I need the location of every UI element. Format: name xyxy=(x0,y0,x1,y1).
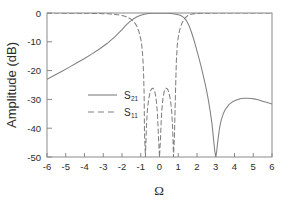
legend-label-s21: S xyxy=(124,90,131,101)
legend-sublabel-s21: 21 xyxy=(131,95,139,102)
x-tick-label-10: 4 xyxy=(232,161,237,172)
chart-svg: -6-5-4-3-2-10123456 0-10-20-30-40-50 Amp… xyxy=(0,0,291,207)
x-tick-label-9: 3 xyxy=(213,161,218,172)
series-line-s21 xyxy=(47,13,272,157)
y-tick-label-4: -40 xyxy=(27,123,41,134)
legend-label-s11: S xyxy=(124,107,131,118)
data-series-group xyxy=(47,13,272,157)
y-axis-label: Amplitude (dB) xyxy=(4,42,19,128)
x-tick-label-8: 2 xyxy=(194,161,199,172)
x-tick-label-4: -2 xyxy=(118,161,126,172)
chart-legend: S 21 S 11 xyxy=(88,90,139,120)
x-tick-label-3: -3 xyxy=(99,161,107,172)
x-tick-label-2: -4 xyxy=(80,161,88,172)
plot-border xyxy=(47,13,272,157)
y-axis-ticks xyxy=(47,13,52,157)
x-tick-label-11: 5 xyxy=(251,161,256,172)
figure-container: -6-5-4-3-2-10123456 0-10-20-30-40-50 Amp… xyxy=(0,0,291,207)
plot-frame xyxy=(47,13,272,157)
x-tick-label-0: -6 xyxy=(43,161,51,172)
y-tick-label-1: -10 xyxy=(27,36,41,47)
x-axis-label: Ω xyxy=(154,183,164,198)
y-tick-label-5: -50 xyxy=(27,152,41,163)
x-tick-label-5: -1 xyxy=(137,161,145,172)
series-line-s11 xyxy=(47,13,272,157)
x-axis-tick-labels: -6-5-4-3-2-10123456 xyxy=(43,161,275,172)
x-tick-label-1: -5 xyxy=(62,161,70,172)
x-tick-label-12: 6 xyxy=(269,161,274,172)
x-tick-label-6: 0 xyxy=(157,161,162,172)
x-tick-label-7: 1 xyxy=(176,161,181,172)
y-tick-label-0: 0 xyxy=(36,8,41,19)
legend-sublabel-s11: 11 xyxy=(131,112,138,119)
y-tick-label-2: -20 xyxy=(27,65,41,76)
y-axis-tick-labels: 0-10-20-30-40-50 xyxy=(27,8,41,163)
y-tick-label-3: -30 xyxy=(27,94,41,105)
